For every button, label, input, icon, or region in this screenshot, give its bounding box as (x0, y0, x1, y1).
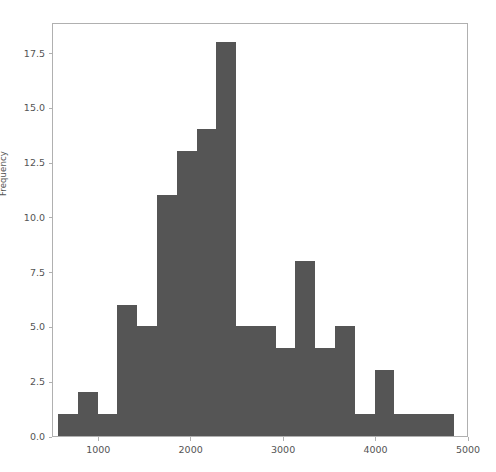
x-tick-label: 4000 (346, 443, 406, 457)
histogram-bar (177, 151, 197, 436)
plot-axes (52, 23, 468, 437)
histogram-bar (295, 261, 315, 436)
x-tick-mark (375, 437, 376, 441)
y-tick-label: 17.5 (24, 47, 45, 61)
histogram-bar (197, 129, 217, 436)
y-tick-label: 15.0 (24, 101, 45, 115)
bars-container (53, 24, 467, 436)
x-tick-mark (98, 437, 99, 441)
histogram-bar (98, 414, 118, 436)
histogram-figure: Frequency 0.02.55.07.510.012.515.017.5 1… (0, 0, 496, 472)
histogram-bar (276, 348, 296, 436)
histogram-bar (78, 392, 98, 436)
histogram-bar (315, 348, 335, 436)
x-tick-label: 5000 (438, 443, 496, 457)
histogram-bar (355, 414, 375, 436)
y-tick-label: 10.0 (24, 211, 45, 225)
x-tick-mark (468, 437, 469, 441)
histogram-bar (236, 326, 256, 436)
y-tick-label: 0.0 (30, 430, 45, 444)
histogram-bar (434, 414, 454, 436)
x-tick-label: 2000 (161, 443, 221, 457)
histogram-bar (216, 42, 236, 436)
x-tick-label: 1000 (68, 443, 128, 457)
histogram-bar (137, 326, 157, 436)
histogram-bar (414, 414, 434, 436)
histogram-bar (117, 305, 137, 436)
histogram-bar (157, 195, 177, 436)
y-axis-label: Frequency (0, 151, 8, 196)
histogram-bar (375, 370, 395, 436)
y-tick-label: 12.5 (24, 156, 45, 170)
histogram-bar (394, 414, 414, 436)
y-tick-label: 2.5 (30, 375, 45, 389)
histogram-bar (256, 326, 276, 436)
y-tick-label: 7.5 (30, 266, 45, 280)
x-tick-mark (190, 437, 191, 441)
y-tick-label: 5.0 (30, 320, 45, 334)
x-tick-mark (283, 437, 284, 441)
histogram-bar (58, 414, 78, 436)
x-tick-label: 3000 (253, 443, 313, 457)
histogram-bar (335, 326, 355, 436)
